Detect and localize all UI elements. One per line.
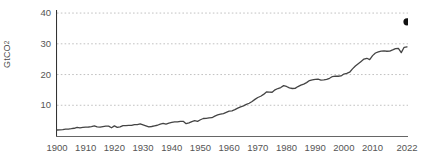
endpoint-marker xyxy=(403,18,408,25)
x-tick-label: 2022 xyxy=(387,143,424,153)
y-tick-label: 10 xyxy=(29,100,51,110)
y-tick-label: 40 xyxy=(29,8,51,18)
y-axis-label-text: GtCO xyxy=(2,44,12,68)
plot-area xyxy=(56,10,408,137)
co2-emissions-line-chart: GtCO2 10203040 1900191019201930194019501… xyxy=(0,0,424,167)
emissions-line xyxy=(57,47,407,130)
y-axis-label-subscript: 2 xyxy=(3,40,10,44)
y-tick-label: 20 xyxy=(29,70,51,80)
plot-svg xyxy=(56,10,408,137)
y-axis-label: GtCO2 xyxy=(0,8,14,68)
gridlines xyxy=(57,13,408,105)
y-tick-label: 30 xyxy=(29,39,51,49)
